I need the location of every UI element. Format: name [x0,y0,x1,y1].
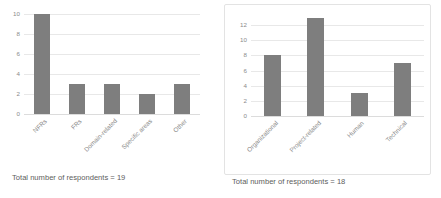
x-axis-label-slot: Specific areas [130,114,165,166]
bar[interactable] [69,84,85,114]
bar-slot[interactable] [294,13,337,116]
x-axis-tick-label-text: Technical [385,120,408,143]
y-axis-tick-label: 4 [244,83,247,89]
y-axis-tick-label: 2 [244,98,247,104]
x-axis-label-slot: Project-related [294,116,337,168]
x-axis-label-slot: Other [165,114,200,166]
bar-slot[interactable] [251,13,294,116]
x-axis-tick-label: FRs [73,113,86,126]
x-axis-left: NFRsFRsDomain-relatedSpecific areasOther [24,114,200,166]
y-axis-tick-label: 4 [17,71,20,77]
y-axis-tick-label: 2 [17,91,20,97]
bar-slot[interactable] [165,14,200,114]
bar[interactable] [264,55,281,116]
figure-row: 0246810 NFRsFRsDomain-relatedSpecific ar… [0,0,441,198]
bar-slot[interactable] [338,13,381,116]
figure-right: 024681012 OrganizationalProject-relatedH… [218,0,441,198]
y-axis-tick-label: 12 [240,22,247,28]
y-axis-tick-label: 10 [240,37,247,43]
x-axis-tick-label: NFRs [36,111,52,127]
x-axis-tick-label-text: FRs [70,118,83,131]
bar[interactable] [307,18,324,116]
x-axis-tick-label: Other [177,111,193,127]
x-axis-label-slot: NFRs [24,114,59,166]
bar[interactable] [34,14,50,114]
bar[interactable] [174,84,190,114]
bar-slot[interactable] [59,14,94,114]
bar-slot[interactable] [24,14,59,114]
y-axis-tick-label: 0 [244,113,247,119]
x-axis-label-slot: Human [338,116,381,168]
x-axis-right: OrganizationalProject-relatedHumanTechni… [251,116,424,168]
figure-left: 0246810 NFRsFRsDomain-relatedSpecific ar… [0,0,218,198]
plot-area-right: 024681012 OrganizationalProject-relatedH… [251,13,424,116]
bar-slot[interactable] [94,14,129,114]
y-axis-tick-label: 6 [17,51,20,57]
bar[interactable] [394,63,411,116]
plot-area-left: 0246810 NFRsFRsDomain-relatedSpecific ar… [24,14,200,114]
caption-left: Total number of respondents = 19 [12,174,125,182]
x-axis-tick-label-text: NFRs [32,118,48,134]
x-axis-label-slot: Organizational [251,116,294,168]
x-axis-tick-label-text: Organizational [245,120,279,154]
x-axis-tick-label-text: Other [173,118,189,134]
y-axis-tick-label: 8 [244,52,247,58]
caption-right: Total number of respondents = 18 [232,178,345,186]
bar-series-left [24,14,200,114]
x-axis-tick-label-text: Project-related [288,120,322,154]
bar-slot[interactable] [130,14,165,114]
chart-right: 024681012 OrganizationalProject-relatedH… [224,4,431,175]
chart-left: 0246810 NFRsFRsDomain-relatedSpecific ar… [2,6,204,166]
y-axis-tick-label: 6 [244,67,247,73]
y-axis-tick-label: 10 [13,11,20,17]
y-axis-tick-label: 8 [17,31,20,37]
x-axis-tick-label-text: Human [346,120,365,139]
y-axis-tick-label: 0 [17,111,20,117]
x-axis-label-slot: Technical [381,116,424,168]
bar-series-right [251,13,424,116]
bar-slot[interactable] [381,13,424,116]
